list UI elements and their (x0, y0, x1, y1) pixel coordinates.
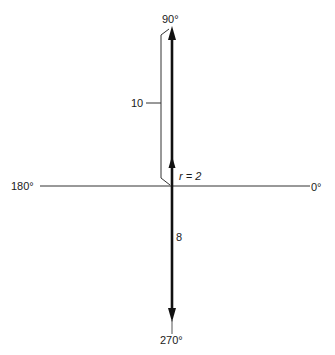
label-90-degrees: 90° (162, 13, 179, 25)
radius-arrowhead-icon (169, 156, 176, 168)
magnitude-bracket (161, 29, 170, 185)
downward-arrowhead-icon (168, 308, 176, 322)
label-270-degrees: 270° (160, 334, 183, 346)
radius-label: r = 2 (179, 170, 201, 182)
label-180-degrees: 180° (11, 180, 34, 192)
upward-arrowhead-icon (168, 26, 176, 40)
label-0-degrees: 0° (311, 181, 322, 193)
vector-diagram (0, 0, 335, 355)
bracket-value-label: 10 (131, 97, 143, 109)
downward-value-label: 8 (176, 231, 182, 243)
